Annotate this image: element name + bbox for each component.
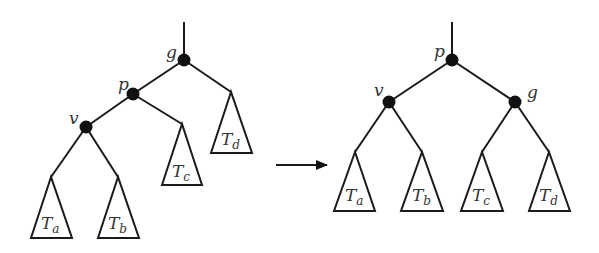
edge-g-Tc <box>482 102 515 152</box>
edge-v-Tb <box>389 102 422 152</box>
edge-v-Ta <box>51 127 86 177</box>
rotation-diagram: g p v Td Tc Ta Tb p v g Ta Tb Tc Td <box>0 0 599 253</box>
label-g: g <box>527 82 538 102</box>
label-p: p <box>118 74 129 94</box>
node-g <box>178 54 191 67</box>
label-v: v <box>374 80 384 100</box>
tree-after: p v g Ta Tb Tc Td <box>334 22 570 211</box>
edge-v-Tb <box>86 127 118 177</box>
edge-g-Td <box>184 60 231 92</box>
node-v <box>383 96 396 109</box>
node-v <box>80 121 93 134</box>
edge-g-Td <box>515 102 549 152</box>
edge-p-g <box>452 60 515 102</box>
edge-p-Tc <box>133 94 182 124</box>
edge-p-v <box>389 60 452 102</box>
edge-p-v <box>86 94 133 127</box>
node-g <box>509 96 522 109</box>
node-p <box>446 54 459 67</box>
label-v: v <box>69 108 79 128</box>
edge-g-p <box>133 60 184 94</box>
tree-before: g p v Td Tc Ta Tb <box>31 22 252 238</box>
edge-v-Ta <box>355 102 389 152</box>
label-g: g <box>166 42 177 62</box>
label-p: p <box>434 41 445 61</box>
